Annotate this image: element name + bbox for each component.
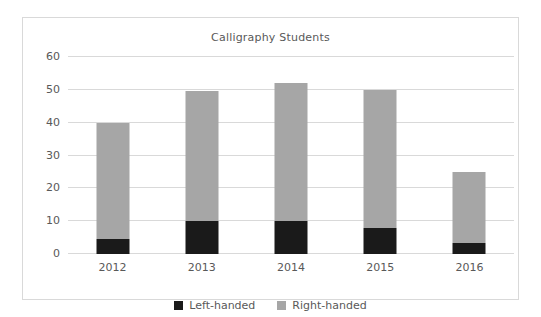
legend-label: Left-handed (189, 299, 255, 312)
bar-segment-left-handed[interactable] (453, 243, 486, 254)
bar-group-2016[interactable]: 2016 (425, 57, 514, 254)
bar-group-2014[interactable]: 2014 (246, 57, 335, 254)
bar-segment-right-handed[interactable] (453, 172, 486, 243)
legend-label: Right-handed (292, 299, 366, 312)
y-axis-tick-label: 40 (46, 115, 60, 128)
bar-group-2013[interactable]: 2013 (157, 57, 246, 254)
bar-segment-right-handed[interactable] (364, 90, 397, 228)
bar-segment-right-handed[interactable] (96, 123, 129, 240)
plot-area: 010203040506020122013201420152016 (68, 57, 514, 254)
bar-segment-left-handed[interactable] (274, 221, 307, 254)
chart-legend: Left-handedRight-handed (23, 299, 518, 312)
x-axis-tick-label: 2013 (188, 261, 216, 274)
legend-item-right-handed[interactable]: Right-handed (277, 299, 366, 312)
bar-segment-right-handed[interactable] (185, 91, 218, 221)
y-axis-tick-label: 20 (46, 181, 60, 194)
y-axis-tick-label: 60 (46, 50, 60, 63)
bar-segment-left-handed[interactable] (96, 239, 129, 254)
legend-swatch-icon (277, 301, 286, 310)
bar-group-2015[interactable]: 2015 (336, 57, 425, 254)
bar-stack[interactable] (453, 172, 486, 254)
legend-swatch-icon (174, 301, 183, 310)
bar-stack[interactable] (364, 90, 397, 254)
x-axis-tick-label: 2014 (277, 261, 305, 274)
x-axis-tick-label: 2012 (99, 261, 127, 274)
bar-group-2012[interactable]: 2012 (68, 57, 157, 254)
bar-stack[interactable] (274, 83, 307, 254)
bar-segment-left-handed[interactable] (364, 228, 397, 254)
y-axis-tick-label: 30 (46, 148, 60, 161)
chart-container: Calligraphy Students 0102030405060201220… (0, 0, 541, 317)
bar-segment-left-handed[interactable] (185, 221, 218, 254)
chart-plot-frame: Calligraphy Students 0102030405060201220… (22, 17, 519, 300)
chart-title: Calligraphy Students (23, 31, 518, 44)
legend-item-left-handed[interactable]: Left-handed (174, 299, 255, 312)
y-axis-tick-label: 0 (53, 247, 60, 260)
bar-stack[interactable] (185, 91, 218, 254)
x-axis-tick-label: 2015 (366, 261, 394, 274)
x-axis-tick-label: 2016 (455, 261, 483, 274)
bar-segment-right-handed[interactable] (274, 83, 307, 221)
y-axis-tick-label: 10 (46, 214, 60, 227)
y-axis-tick-label: 50 (46, 82, 60, 95)
bar-stack[interactable] (96, 123, 129, 254)
